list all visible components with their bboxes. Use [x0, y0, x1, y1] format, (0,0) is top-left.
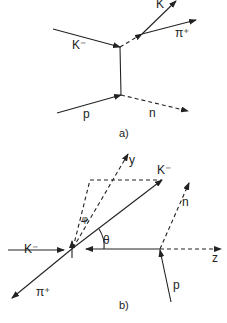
label-theta: θ: [103, 233, 110, 247]
label-phi: φ: [82, 214, 88, 224]
k-minus-incoming-line-a: [53, 29, 120, 47]
proton-incoming-line-b: [160, 250, 171, 302]
diagram-a: K⁻ K π⁺ p n a): [53, 0, 196, 139]
label-pi-plus-b: π⁺: [36, 285, 50, 299]
caption-a: a): [119, 127, 129, 139]
label-k-minus-in-b: K⁻: [24, 242, 38, 256]
intermediate-dashed-line: [120, 34, 142, 47]
label-y-axis: y: [129, 153, 135, 167]
diagram-b: y K⁻ n K⁻ θ φ z π⁺ p b): [8, 153, 221, 311]
label-proton-b: p: [173, 278, 180, 292]
label-proton-a: p: [83, 107, 90, 121]
y-axis-line: [73, 154, 128, 248]
exchange-propagator-line: [120, 47, 121, 95]
label-pi-plus-a: π⁺: [175, 26, 189, 40]
caption-b: b): [119, 299, 129, 311]
label-neutron-a: n: [149, 106, 156, 120]
neutron-outgoing-line-b: [160, 183, 189, 249]
feynman-and-kinematics-diagram: K⁻ K π⁺ p n a) y K⁻ n K: [0, 0, 227, 323]
label-neutron-b: n: [182, 195, 189, 209]
label-z-axis: z: [212, 251, 218, 265]
label-k-out-a: K: [156, 0, 164, 11]
label-k-minus-out-b: K⁻: [157, 163, 171, 177]
label-k-minus-in-a: K⁻: [72, 38, 86, 52]
